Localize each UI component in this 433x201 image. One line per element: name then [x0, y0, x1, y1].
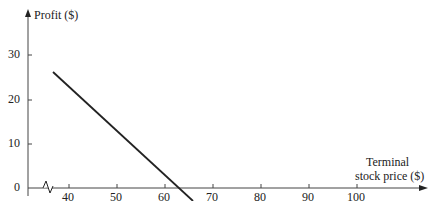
x-axis-arrow-icon	[419, 185, 428, 191]
x-tick-90: 90	[302, 190, 314, 201]
x-axis-label-line1: Terminal	[366, 155, 409, 170]
x-tick-50: 50	[110, 190, 122, 201]
y-axis-arrow-icon	[25, 9, 31, 17]
y-tick-0: 0	[14, 180, 20, 195]
y-axis-label: Profit ($)	[34, 8, 78, 23]
axis-break-icon	[43, 181, 53, 193]
x-tick-80: 80	[254, 190, 266, 201]
y-tick-30: 30	[8, 47, 20, 62]
x-tick-60: 60	[158, 190, 170, 201]
profit-line	[53, 72, 193, 201]
x-tick-40: 40	[62, 190, 74, 201]
y-ticks	[28, 55, 32, 144]
x-tick-70: 70	[206, 190, 218, 201]
y-tick-10: 10	[8, 136, 20, 151]
x-axis-label-line2: stock price ($)	[355, 169, 424, 184]
x-tick-100: 100	[347, 190, 365, 201]
y-tick-20: 20	[8, 92, 20, 107]
x-ticks	[69, 184, 357, 188]
